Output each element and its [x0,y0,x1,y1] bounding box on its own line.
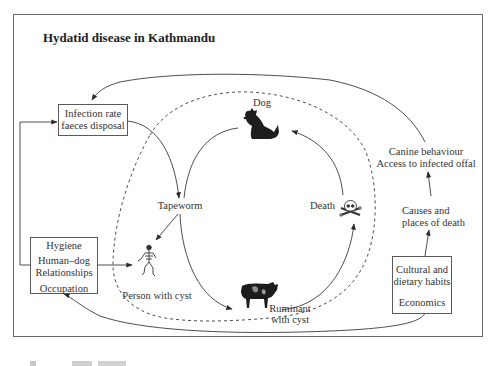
arrow-cultural-to-hygiene [64,294,425,332]
box-line: Occupation [31,283,97,295]
box-line: Human–dog [31,255,97,267]
box-line: faeces disposal [59,120,127,132]
ruminant-line: Ruminant [269,303,310,314]
caption-fragment [72,361,92,366]
box-line: Relationships [31,267,97,279]
dog-label: Dog [253,97,271,109]
person-with-cyst-label: Person with cyst [122,290,191,302]
arrow-tapeworm-to-dog [184,128,238,198]
box-line: Economics [393,297,451,309]
box-line: Infection rate [59,108,127,120]
factor-line: Access to infected offal [376,158,475,170]
box-line: Hygiene [31,240,97,252]
arrow-causes-to-canine [428,172,431,196]
factor-line: Causes and [402,205,465,217]
cropped-caption [30,355,330,366]
infection-rate-box: Infection rate faeces disposal [58,104,128,136]
ruminant-line: with cyst [269,314,310,325]
hygiene-box: Hygiene Human–dog Relationships Occupati… [30,237,98,294]
figure-title: Hydatid disease in Kathmandu [43,30,215,46]
caption-fragment [30,361,36,366]
factor-line: Canine behaviour [376,146,475,158]
arrow-ruminant-to-death [282,224,354,310]
skull-crossbones-icon [340,201,361,217]
caption-fragment [98,361,126,366]
causes-of-death-label: Causes and places of death [402,205,465,229]
dog-silhouette-icon [244,108,279,139]
ruminant-label: Ruminant with cyst [269,303,310,325]
box-line: dietary habits [393,276,451,288]
tapeworm-label: Tapeworm [158,200,203,212]
human-skeleton-icon [138,245,156,276]
death-label: Death [310,200,335,212]
arrow-cultural-to-causes [425,230,429,256]
arrow-death-to-dog [292,131,343,195]
arrow-infection-to-tapeworm [127,121,179,198]
canine-behaviour-label: Canine behaviour Access to infected offa… [376,146,475,170]
factor-line: places of death [402,217,465,229]
cultural-habits-box: Cultural and dietary habits Economics [392,256,452,314]
arrow-tapeworm-to-person [156,214,178,240]
box-line: Cultural and [393,264,451,276]
